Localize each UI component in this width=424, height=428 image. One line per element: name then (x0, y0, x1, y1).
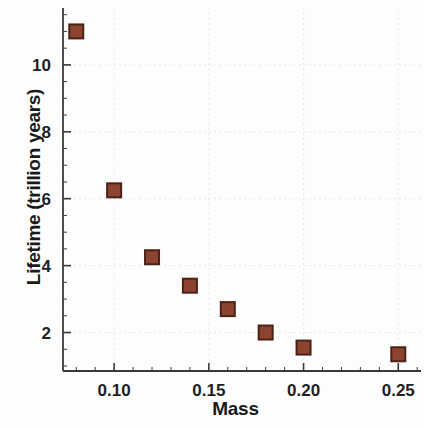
data-point (391, 347, 405, 361)
x-tick-label: 0.20 (287, 381, 320, 400)
scatter-chart: Lifetime (trillion years) Mass 2468100.1… (0, 0, 424, 428)
x-tick-label: 0.10 (98, 381, 131, 400)
data-point (259, 326, 273, 340)
data-point (297, 341, 311, 355)
data-point (107, 183, 121, 197)
data-point (183, 279, 197, 293)
data-point (221, 302, 235, 316)
x-tick-label: 0.25 (382, 381, 415, 400)
y-tick-label: 4 (42, 257, 52, 276)
y-tick-label: 6 (42, 190, 51, 209)
y-tick-label: 10 (32, 56, 51, 75)
major-tick-marks (63, 65, 398, 371)
x-tick-label: 0.15 (192, 381, 225, 400)
tick-labels: 2468100.100.150.200.25 (32, 56, 415, 400)
data-point (145, 250, 159, 264)
data-point-markers (69, 24, 405, 361)
y-tick-label: 2 (42, 324, 51, 343)
plot-area: 2468100.100.150.200.25 (0, 0, 424, 428)
data-point (69, 24, 83, 38)
y-tick-label: 8 (42, 123, 51, 142)
